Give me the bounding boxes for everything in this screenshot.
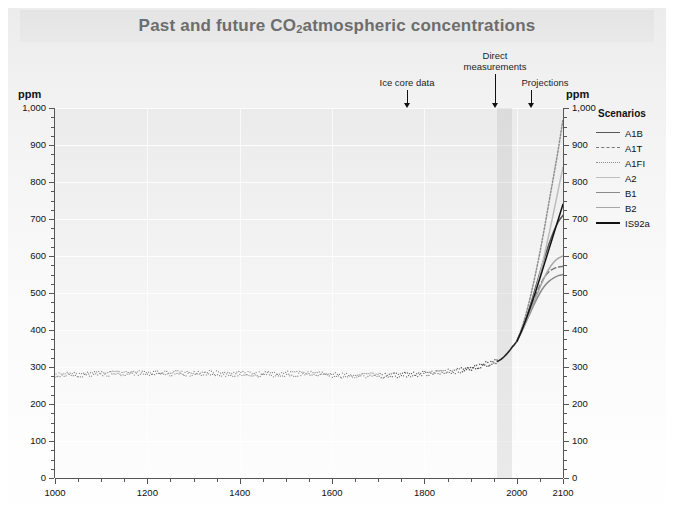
y-tick-minor-right <box>564 154 567 155</box>
y-tick-minor-left <box>51 164 54 165</box>
y-tick-minor-left <box>51 312 54 313</box>
annotation-label-line1: Direct <box>483 50 508 61</box>
title-subscript: 2 <box>296 23 302 35</box>
legend-line-swatch <box>596 173 620 183</box>
legend-item-a1fi[interactable]: A1FI <box>596 156 668 170</box>
arrow-direct-measurements <box>491 74 500 108</box>
legend-item-is92a[interactable]: IS92a <box>596 216 668 230</box>
annotation-label: Ice core data <box>380 77 435 88</box>
y-tick-minor-left <box>51 376 54 377</box>
y-tick-minor-right <box>564 404 569 405</box>
x-tick <box>401 479 402 482</box>
y-tick-minor-left <box>51 469 54 470</box>
legend-item-b2[interactable]: B2 <box>596 201 668 215</box>
y-tick-minor-right <box>564 367 569 368</box>
y-tick-minor-left <box>51 173 54 174</box>
y-tick-minor-right <box>564 228 567 229</box>
legend-line-swatch <box>596 188 620 198</box>
y-tick-minor-left <box>51 450 54 451</box>
x-tick <box>194 479 195 482</box>
y-tick-minor-right <box>564 173 567 174</box>
page-title: Past and future CO2 atmospheric concentr… <box>20 10 654 42</box>
y-tick-label-right: 200 <box>572 398 588 409</box>
y-tick-minor-left <box>51 302 54 303</box>
y-tick-minor-left <box>49 330 54 331</box>
y-tick-minor-right <box>564 460 567 461</box>
y-tick-label-left: 500 <box>0 287 46 298</box>
arrow-projections <box>527 90 536 108</box>
y-tick-label-left: 400 <box>0 324 46 335</box>
legend-item-a1t[interactable]: A1T <box>596 141 668 155</box>
x-tick <box>170 479 171 482</box>
y-axis-unit-right: ppm <box>566 88 589 100</box>
y-tick-minor-right <box>564 478 569 479</box>
legend-item-b1[interactable]: B1 <box>596 186 668 200</box>
x-tick-label: 1000 <box>29 487 81 498</box>
y-tick-minor-left <box>51 395 54 396</box>
y-tick-label-right: 300 <box>572 361 588 372</box>
y-tick-minor-right <box>564 321 567 322</box>
y-tick-minor-right <box>564 136 567 137</box>
y-tick-minor-right <box>564 330 569 331</box>
x-tick <box>471 479 472 482</box>
y-tick-minor-right <box>564 376 567 377</box>
y-tick-minor-right <box>564 302 567 303</box>
legend-item-label: B1 <box>625 188 637 199</box>
legend-item-label: B2 <box>625 203 637 214</box>
x-tick <box>286 479 287 482</box>
y-tick-label-right: 800 <box>572 176 588 187</box>
y-tick-minor-left <box>49 441 54 442</box>
y-tick-minor-left <box>51 349 54 350</box>
title-band: Past and future CO2 atmospheric concentr… <box>20 10 654 42</box>
annotation-direct-measurements: Direct measurements <box>440 50 550 72</box>
annotation-label-line2: measurements <box>464 61 527 72</box>
y-tick-minor-left <box>51 358 54 359</box>
series-a1fi <box>517 119 563 341</box>
series-direct-measurements <box>497 341 516 361</box>
x-tick <box>378 479 379 482</box>
x-tick-label: 1800 <box>398 487 450 498</box>
y-tick-minor-right <box>564 201 567 202</box>
y-tick-minor-right <box>564 312 567 313</box>
legend-item-label: A2 <box>625 173 637 184</box>
annotation-label: Projections <box>522 77 569 88</box>
y-tick-minor-right <box>564 247 567 248</box>
y-tick-label-left: 200 <box>0 398 46 409</box>
title-suffix: atmospheric concentrations <box>303 16 536 36</box>
legend-item-a2[interactable]: A2 <box>596 171 668 185</box>
x-tick <box>540 479 541 482</box>
y-tick-minor-left <box>49 145 54 146</box>
legend-item-a1b[interactable]: A1B <box>596 126 668 140</box>
y-tick-minor-right <box>564 339 567 340</box>
y-tick-minor-left <box>51 201 54 202</box>
y-tick-minor-left <box>51 136 54 137</box>
y-tick-label-left: 900 <box>0 139 46 150</box>
y-tick-label-right: 500 <box>572 287 588 298</box>
y-tick-minor-left <box>51 432 54 433</box>
y-tick-minor-right <box>564 219 569 220</box>
x-tick <box>263 479 264 482</box>
y-tick-minor-left <box>49 219 54 220</box>
x-tick <box>124 479 125 482</box>
y-tick-minor-left <box>49 256 54 257</box>
legend-title: Scenarios <box>598 108 668 119</box>
y-tick-minor-right <box>564 395 567 396</box>
y-tick-minor-left <box>51 386 54 387</box>
y-tick-minor-right <box>564 469 567 470</box>
y-tick-minor-left <box>51 423 54 424</box>
y-tick-minor-left <box>51 275 54 276</box>
y-tick-minor-right <box>564 275 567 276</box>
y-tick-label-left: 0 <box>0 472 46 483</box>
y-tick-minor-left <box>49 478 54 479</box>
legend-item-label: A1T <box>625 143 642 154</box>
annotation-ice-core-data: Ice core data <box>352 77 462 88</box>
y-tick-minor-right <box>564 386 567 387</box>
title-prefix: Past and future CO <box>139 16 297 36</box>
x-tick <box>240 479 241 484</box>
x-tick <box>517 479 518 484</box>
x-tick-label: 1600 <box>306 487 358 498</box>
y-tick-minor-left <box>49 182 54 183</box>
y-tick-minor-right <box>564 108 569 109</box>
legend-line-swatch <box>596 218 620 228</box>
y-tick-minor-left <box>49 404 54 405</box>
